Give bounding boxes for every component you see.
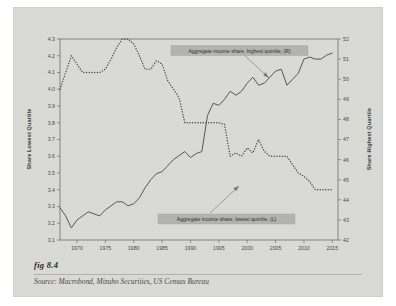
figure-card: 3.13.23.33.43.53.63.73.83.94.04.14.24.3 …	[14, 8, 382, 296]
right-tick-label: 42	[343, 237, 349, 243]
right-tick-label: 44	[343, 197, 349, 203]
x-tick-label: 1980	[128, 245, 140, 251]
right-axis-ticks: 4243444546474849505152	[338, 36, 349, 243]
right-tick-label: 47	[343, 136, 349, 142]
chart-plot-area: 3.13.23.33.43.53.63.73.83.94.04.14.24.3 …	[14, 8, 382, 256]
figure-label: fig 8.4	[34, 260, 58, 270]
right-tick-label: 49	[343, 96, 349, 102]
left-tick-label: 3.8	[48, 120, 55, 126]
left-tick-label: 4.0	[48, 86, 55, 92]
left-axis-title: Share Lowest Quartile	[26, 108, 32, 169]
plot-frame	[60, 39, 338, 240]
x-tick-label: 2010	[298, 245, 310, 251]
x-tick-label: 1975	[100, 245, 112, 251]
income-share-chart: 3.13.23.33.43.53.63.73.83.94.04.14.24.3 …	[14, 8, 382, 256]
left-tick-label: 4.2	[48, 53, 55, 59]
x-tick-label: 1985	[156, 245, 168, 251]
x-tick-label: 1970	[71, 245, 83, 251]
left-tick-label: 3.4	[48, 187, 55, 193]
annotation-lowest-quintile: Aggregate income share, lowest quintile,…	[158, 186, 295, 224]
source-line: Source: Macrobond, Mizuho Securities, US…	[34, 277, 209, 286]
series-highest-quintile	[60, 53, 332, 228]
x-tick-label: 2000	[241, 245, 253, 251]
x-tick-label: 2015	[327, 245, 339, 251]
left-tick-label: 4.1	[48, 69, 55, 75]
right-tick-label: 45	[343, 177, 349, 183]
source-text: Macrobond, Mizuho Securities, US Census …	[59, 277, 209, 286]
right-axis-title: Share Highest Quartile	[366, 108, 372, 171]
left-axis-ticks: 3.13.23.33.43.53.63.73.83.94.04.14.24.3	[48, 36, 60, 243]
right-tick-label: 51	[343, 56, 349, 62]
right-tick-label: 43	[343, 217, 349, 223]
x-axis-ticks: 1970197519801985199019952000200520102015	[71, 240, 338, 251]
left-tick-label: 3.5	[48, 170, 55, 176]
left-tick-label: 3.7	[48, 136, 55, 142]
figure-footer: fig 8.4 Source: Macrobond, Mizuho Securi…	[14, 256, 382, 296]
right-tick-label: 48	[343, 116, 349, 122]
series-lowest-quintile	[60, 39, 332, 190]
annotation-lowest-text: Aggregate income share, lowest quintile,…	[177, 216, 277, 222]
left-tick-label: 4.3	[48, 36, 55, 42]
annotation-highest-text: Aggregate income share, highest quintile…	[188, 48, 291, 54]
left-tick-label: 3.3	[48, 203, 55, 209]
right-tick-label: 46	[343, 157, 349, 163]
annotation-highest-quintile: Aggregate income share, highest quintile…	[171, 46, 308, 79]
left-tick-label: 3.2	[48, 220, 55, 226]
left-tick-label: 3.1	[48, 237, 55, 243]
right-tick-label: 50	[343, 76, 349, 82]
annotation-lowest-arrow	[210, 186, 239, 213]
x-tick-label: 1990	[185, 245, 197, 251]
left-tick-label: 3.6	[48, 153, 55, 159]
right-tick-label: 52	[343, 36, 349, 42]
plot-border	[60, 39, 338, 240]
x-tick-label: 2005	[270, 245, 282, 251]
footer-divider	[34, 274, 362, 275]
annotation-highest-arrowhead	[263, 72, 269, 78]
x-tick-label: 1995	[213, 245, 225, 251]
source-label: Source:	[34, 277, 57, 286]
left-tick-label: 3.9	[48, 103, 55, 109]
